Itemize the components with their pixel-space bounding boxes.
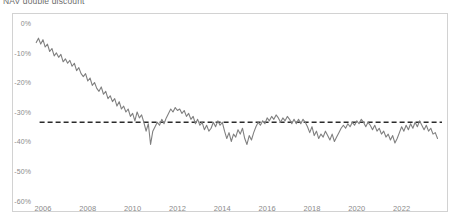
chart-figure: NAV double discount 0%-10%-20%-30%-40%-5…	[0, 0, 461, 224]
x-tick-label: 2008	[68, 204, 108, 213]
x-tick-label: 2020	[337, 204, 377, 213]
x-tick-label: 2018	[292, 204, 332, 213]
y-tick-label: -30%	[0, 109, 31, 116]
x-tick-label: 2010	[113, 204, 153, 213]
x-tick-label: 2012	[157, 204, 197, 213]
plot-svg	[12, 13, 448, 212]
y-tick-label: -50%	[0, 168, 31, 175]
x-tick-label: 2014	[202, 204, 242, 213]
y-tick-label: -20%	[0, 79, 31, 86]
y-tick-label: -40%	[0, 138, 31, 145]
x-tick-label: 2016	[247, 204, 287, 213]
y-tick-label: 0%	[0, 20, 31, 27]
y-tick-label: -10%	[0, 50, 31, 57]
series-line-nav-double-discount	[36, 38, 437, 144]
x-tick-label: 2006	[23, 204, 63, 213]
x-tick-label: 2022	[382, 204, 422, 213]
chart-title: NAV double discount	[3, 0, 85, 6]
